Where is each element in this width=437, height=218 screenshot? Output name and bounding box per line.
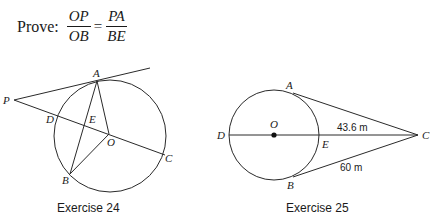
ex25-caption: Exercise 25 <box>286 201 349 215</box>
ex25-label-A: A <box>285 79 293 91</box>
ex24-label-D: D <box>45 113 54 125</box>
exercise-25-figure: A D O E C B 43.6 m 60 m Exercise 25 <box>216 79 430 215</box>
ex25-label-C: C <box>422 129 430 141</box>
ex25-label-O: O <box>270 118 278 130</box>
ex24-radius-OA <box>97 81 109 134</box>
ex24-label-C: C <box>165 152 173 164</box>
diagrams: P A D E O C B Exercise 24 A D O E C B 43… <box>0 0 437 218</box>
ex24-label-A: A <box>92 67 100 79</box>
ex24-label-P: P <box>2 94 10 106</box>
ex25-center-dot <box>271 132 276 137</box>
ex25-measure-EC: 43.6 m <box>337 122 368 133</box>
ex24-label-B: B <box>62 174 69 186</box>
ex24-label-O: O <box>107 136 115 148</box>
ex25-label-D: D <box>216 129 225 141</box>
ex24-caption: Exercise 24 <box>57 201 120 215</box>
ex24-label-E: E <box>88 113 96 125</box>
ex25-label-E: E <box>321 138 329 150</box>
ex25-measure-BC: 60 m <box>340 162 362 173</box>
exercise-24-figure: P A D E O C B Exercise 24 <box>2 67 173 215</box>
ex25-label-B: B <box>287 179 294 191</box>
